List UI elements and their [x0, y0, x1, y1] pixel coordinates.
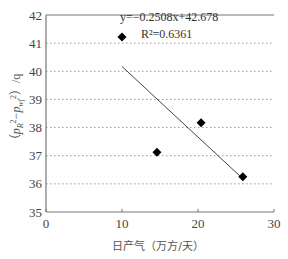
gridlines	[46, 43, 274, 184]
data-point-diamond	[152, 148, 161, 157]
r-squared-label: R²=0.6361	[141, 27, 192, 41]
x-tick-label: 10	[116, 216, 129, 231]
trendline-equation: y=−0.2508x+42.678	[120, 10, 218, 24]
y-axis-ticks: 3536373839404142	[29, 8, 43, 220]
y-tick-label: 37	[29, 148, 43, 163]
x-tick-label: 30	[268, 216, 281, 231]
x-tick-label: 0	[43, 216, 50, 231]
scatter-chart: 3536373839404142 0102030 y=−0.2508x+42.6…	[0, 0, 288, 259]
legend: y=−0.2508x+42.678 R²=0.6361	[118, 10, 219, 42]
y-tick-label: 41	[29, 36, 42, 51]
x-tick-label: 20	[192, 216, 205, 231]
legend-diamond-icon	[118, 33, 127, 42]
svg-text:（pR2−pwf2）/q: （pR2−pwf2）/q	[9, 74, 25, 147]
y-tick-label: 35	[29, 205, 42, 220]
y-tick-label: 39	[29, 92, 42, 107]
y-tick-label: 42	[29, 8, 42, 23]
trendline	[122, 67, 243, 179]
trendline-line	[122, 67, 243, 179]
data-point-diamond	[197, 118, 206, 127]
y-tick-label: 40	[29, 64, 42, 79]
x-axis-label: 日产气（万方/天）	[112, 239, 204, 253]
plot-frame	[46, 15, 274, 212]
y-tick-label: 38	[29, 120, 42, 135]
y-axis-label: （pR2−pwf2）/q	[9, 74, 25, 147]
data-point-diamond	[238, 172, 247, 181]
y-tick-label: 36	[29, 176, 43, 191]
